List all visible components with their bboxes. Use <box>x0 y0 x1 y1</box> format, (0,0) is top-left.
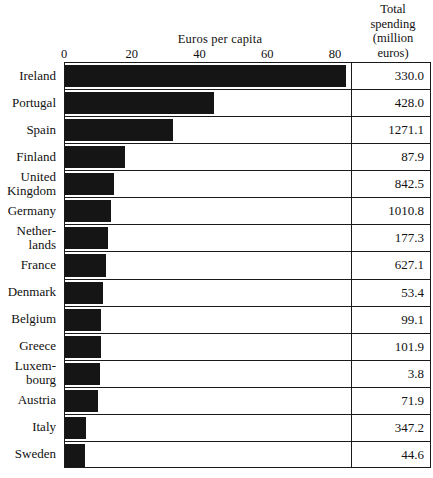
bar-row <box>65 334 351 361</box>
bar <box>65 390 98 412</box>
value-cell-row: 53.4 <box>352 280 430 307</box>
x-tick-label-60: 60 <box>252 47 282 62</box>
x-tick-label-80: 80 <box>320 47 350 62</box>
x-axis-title: Euros per capita <box>150 32 290 47</box>
value-cell-row: 44.6 <box>352 442 430 469</box>
value-cell: 177.3 <box>395 230 424 246</box>
category-label-row: France <box>0 251 60 278</box>
plot-area <box>64 62 352 468</box>
value-cell-row: 627.1 <box>352 252 430 279</box>
x-tick-label-0: 0 <box>49 47 79 62</box>
bar-row <box>65 117 351 144</box>
bar-row <box>65 442 351 469</box>
bar-row <box>65 225 351 252</box>
bar <box>65 444 85 467</box>
value-cell-row: 3.8 <box>352 361 430 388</box>
value-cell: 101.9 <box>395 339 424 355</box>
category-label: Sweden <box>0 447 56 461</box>
category-label: Ireland <box>0 69 56 83</box>
category-label-row: Denmark <box>0 279 60 306</box>
category-label: Germany <box>0 204 56 218</box>
bar <box>65 309 101 331</box>
bar-row <box>65 307 351 334</box>
bar <box>65 92 214 114</box>
value-cell-row: 1010.8 <box>352 198 430 225</box>
value-cell: 53.4 <box>401 285 424 301</box>
value-column-header: Total spending (million euros) <box>355 2 431 60</box>
value-cell-row: 428.0 <box>352 90 430 117</box>
value-cell: 44.6 <box>401 447 424 463</box>
category-label-row: United Kingdom <box>0 170 60 197</box>
value-column-header-line-3: (million <box>355 31 431 46</box>
value-cell: 87.9 <box>401 149 424 165</box>
category-label-row: Finland <box>0 143 60 170</box>
category-label-row: Spain <box>0 116 60 143</box>
bar-row <box>65 144 351 171</box>
value-cell: 71.9 <box>401 393 424 409</box>
category-label: Italy <box>0 420 56 434</box>
bar <box>65 227 108 249</box>
value-cell-row: 1271.1 <box>352 117 430 144</box>
bar <box>65 146 125 168</box>
value-cell: 627.1 <box>395 257 424 273</box>
bar-chart: Euros per capita Total spending (million… <box>0 0 433 478</box>
value-column-header-line-1: Total <box>355 2 431 17</box>
x-tick-label-40: 40 <box>185 47 215 62</box>
category-label-row: Nether- lands <box>0 224 60 251</box>
category-label-row: Italy <box>0 414 60 441</box>
value-cell-row: 99.1 <box>352 307 430 334</box>
value-cell: 99.1 <box>401 312 424 328</box>
bar-row <box>65 198 351 225</box>
bar-row <box>65 90 351 117</box>
category-label: Austria <box>0 393 56 407</box>
category-label: Spain <box>0 123 56 137</box>
category-axis-labels: IrelandPortugalSpainFinlandUnited Kingdo… <box>0 62 60 468</box>
category-label-row: Sweden <box>0 441 60 468</box>
category-label: United Kingdom <box>0 170 56 198</box>
bar <box>65 119 173 141</box>
value-column-header-line-2: spending <box>355 17 431 32</box>
bar <box>65 65 346 87</box>
value-cell-row: 330.0 <box>352 63 430 90</box>
category-label-row: Austria <box>0 387 60 414</box>
value-cell: 1271.1 <box>388 122 424 138</box>
category-label: Nether- lands <box>0 224 56 252</box>
value-cell: 428.0 <box>395 95 424 111</box>
value-column-header-line-4: euros) <box>355 46 431 61</box>
bar-row <box>65 388 351 415</box>
bar <box>65 200 111 222</box>
value-cell: 1010.8 <box>388 203 424 219</box>
value-cell: 330.0 <box>395 68 424 84</box>
category-label-row: Belgium <box>0 306 60 333</box>
category-label-row: Ireland <box>0 62 60 89</box>
category-label: Portugal <box>0 96 56 110</box>
value-cell: 842.5 <box>395 176 424 192</box>
value-cell-row: 87.9 <box>352 144 430 171</box>
bar-row <box>65 252 351 279</box>
category-label: Denmark <box>0 285 56 299</box>
category-label: Belgium <box>0 312 56 326</box>
category-label-row: Germany <box>0 197 60 224</box>
category-label: France <box>0 258 56 272</box>
value-cell-row: 71.9 <box>352 388 430 415</box>
category-label: Finland <box>0 150 56 164</box>
value-column: 330.0428.01271.187.9842.51010.8177.3627.… <box>352 62 431 468</box>
bar-row <box>65 415 351 442</box>
bar <box>65 254 106 276</box>
category-label-row: Luxem- bourg <box>0 360 60 387</box>
bar <box>65 336 101 358</box>
value-cell-row: 347.2 <box>352 415 430 442</box>
value-cell: 347.2 <box>395 420 424 436</box>
bar <box>65 173 114 195</box>
bar-row <box>65 361 351 388</box>
bar <box>65 363 100 385</box>
category-label-row: Portugal <box>0 89 60 116</box>
category-label: Greece <box>0 339 56 353</box>
value-cell-row: 177.3 <box>352 225 430 252</box>
bar-row <box>65 171 351 198</box>
value-cell-row: 842.5 <box>352 171 430 198</box>
bar-row <box>65 280 351 307</box>
bar <box>65 417 86 439</box>
x-tick-label-20: 20 <box>117 47 147 62</box>
category-label-row: Greece <box>0 333 60 360</box>
